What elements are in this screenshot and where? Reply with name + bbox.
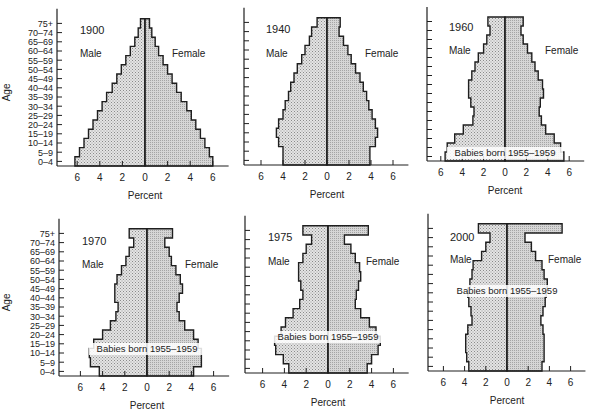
female-bars [507,224,562,371]
female-bars [145,19,213,166]
x-tick-label: 4 [462,377,468,388]
age-label: 15–19 [28,129,53,139]
age-label: 20–24 [30,330,55,340]
pyramid-panel-1970: 0–45–910–1415–1920–2425–2930–3435–3940–4… [1,219,229,411]
x-tick-label: 2 [122,382,128,393]
x-tick-label: 4 [547,377,553,388]
pyramid-panel-1900: 0–45–910–1415–1920–2425–2930–3435–3940–4… [1,9,229,201]
age-label: 10–14 [30,348,55,358]
x-tick-label: 4 [282,379,288,390]
x-tick-label: 0 [324,171,330,182]
age-label: 75+ [38,19,53,29]
x-tick-label: 2 [481,167,487,178]
male-label: Male [268,256,290,267]
x-tick-label: 2 [166,382,172,393]
x-tick-label: 4 [368,171,374,182]
age-label: 25–29 [30,321,55,331]
female-bars [505,17,564,161]
age-label: 50–54 [28,65,53,75]
x-tick-label: 6 [258,171,264,182]
x-tick-label: 2 [483,377,489,388]
x-tick-label: 6 [260,379,266,390]
x-tick-label: 6 [390,171,396,182]
x-tick-label: 2 [347,379,353,390]
age-label: 30–34 [28,102,53,112]
x-tick-label: 6 [78,382,84,393]
age-label: 45–49 [30,284,55,294]
female-label: Female [545,45,579,56]
panel-title: 1960 [449,21,473,33]
pyramid-panel-1975: 6420246Percent1975MaleFemaleBabies born … [245,216,409,408]
female-bars [327,18,378,165]
age-label: 70–74 [30,238,55,248]
x-tick-label: 4 [545,167,551,178]
panel-title: 1940 [266,23,290,35]
x-tick-label: 6 [210,172,216,183]
panel-title: 2000 [450,231,474,243]
babies-born-annotation: Babies born 1955–1959 [455,147,556,158]
age-label: 75+ [40,229,55,239]
babies-born-annotation: Babies born 1955–1959 [457,285,558,296]
age-label: 50–54 [30,275,55,285]
babies-born-annotation: Babies born 1955–1959 [278,331,379,342]
panel-title: 1975 [268,231,292,243]
age-label: 35–39 [28,92,53,102]
x-tick-label: 2 [165,172,171,183]
x-axis-label: Percent [490,395,525,406]
male-bars [466,224,507,371]
age-label: 5–9 [40,358,55,368]
x-tick-label: 0 [144,382,150,393]
male-bars [445,17,505,161]
x-tick-label: 6 [391,379,397,390]
age-label: 40–44 [30,293,55,303]
x-tick-label: 6 [74,172,80,183]
x-axis-label: Percent [488,185,523,196]
male-bars [75,19,145,166]
x-tick-label: 4 [459,167,465,178]
x-tick-label: 2 [120,172,126,183]
age-label: 5–9 [38,148,53,158]
female-label: Female [548,254,582,265]
x-tick-label: 0 [504,377,510,388]
age-label: 60–64 [28,46,53,56]
x-tick-label: 6 [568,377,574,388]
x-axis-label: Percent [130,400,165,411]
x-tick-label: 4 [189,382,195,393]
age-label: 40–44 [28,83,53,93]
male-label: Male [450,254,472,265]
female-bars [328,226,380,373]
age-axis-label: Age [1,83,12,101]
x-tick-label: 6 [211,382,217,393]
age-label: 55–59 [28,56,53,66]
male-bars [276,18,327,165]
x-axis-label: Percent [310,189,345,200]
x-tick-label: 4 [100,382,106,393]
pyramid-panel-1960: 6420246Percent1960MaleFemaleBabies born … [427,7,584,196]
age-label: 55–59 [30,266,55,276]
population-pyramids-figure: 0–45–910–1415–1920–2425–2930–3435–3940–4… [0,0,604,414]
female-label: Female [366,256,400,267]
age-label: 60–64 [30,256,55,266]
panel-title: 1970 [82,235,106,247]
age-label: 45–49 [28,74,53,84]
x-tick-label: 4 [97,172,103,183]
age-label: 65–69 [30,247,55,257]
x-tick-label: 4 [369,379,375,390]
pyramid-panel-2000: 6420246Percent2000MaleFemaleBabies born … [428,214,585,406]
x-tick-label: 2 [346,171,352,182]
x-tick-label: 0 [142,172,148,183]
age-label: 70–74 [28,28,53,38]
x-tick-label: 0 [325,379,331,390]
male-label: Male [82,259,104,270]
panel-title: 1900 [80,24,104,36]
age-label: 65–69 [28,37,53,47]
babies-born-annotation: Babies born 1955–1959 [97,343,198,354]
x-tick-label: 2 [302,171,308,182]
age-label: 10–14 [28,138,53,148]
male-label: Male [266,48,288,59]
x-tick-label: 0 [502,167,508,178]
x-tick-label: 2 [303,379,309,390]
male-label: Male [449,45,471,56]
male-bars [275,226,328,373]
age-label: 35–39 [30,302,55,312]
